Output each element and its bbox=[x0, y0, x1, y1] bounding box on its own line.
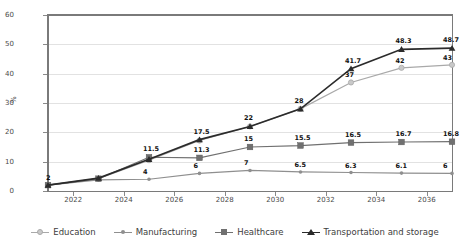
x-axis-tick-label: 2026 bbox=[154, 196, 194, 204]
x-axis-tick-mark bbox=[174, 192, 175, 196]
data-label: 6.3 bbox=[345, 163, 357, 170]
data-label: 15 bbox=[244, 136, 253, 143]
data-label: 6 bbox=[194, 163, 199, 170]
gridline bbox=[49, 162, 452, 163]
y-axis-tick-label: 40 bbox=[0, 74, 14, 81]
legend-item[interactable]: Manufacturing bbox=[114, 227, 198, 237]
data-label: 4 bbox=[143, 169, 148, 176]
data-label: 2 bbox=[46, 175, 51, 182]
data-label: 17.5 bbox=[194, 129, 210, 136]
data-label: 41.7 bbox=[345, 58, 361, 65]
legend-label: Education bbox=[53, 227, 95, 237]
gridline bbox=[49, 132, 452, 133]
legend-label: Transportation and storage bbox=[324, 227, 439, 237]
x-axis-tick-mark bbox=[124, 192, 125, 196]
x-axis-tick-label: 2024 bbox=[104, 196, 144, 204]
data-label: 6.1 bbox=[396, 163, 408, 170]
x-axis-tick-label: 2034 bbox=[356, 196, 396, 204]
data-label: 16.8 bbox=[443, 131, 459, 138]
legend-marker-icon bbox=[114, 227, 132, 237]
plot-area bbox=[47, 14, 453, 192]
x-axis-tick-mark bbox=[326, 192, 327, 196]
data-label: 16.7 bbox=[396, 131, 412, 138]
data-label: 11.5 bbox=[143, 146, 159, 153]
y-axis-tick-mark bbox=[43, 74, 47, 75]
y-axis-tick-label: 50 bbox=[0, 44, 14, 51]
y-axis-tick-mark bbox=[43, 44, 47, 45]
legend-item[interactable]: Healthcare bbox=[215, 227, 283, 237]
x-axis-tick-label: 2030 bbox=[255, 196, 295, 204]
y-axis-tick-label: 20 bbox=[0, 132, 14, 139]
data-label: 11.3 bbox=[194, 147, 210, 154]
data-label: 7 bbox=[244, 160, 249, 167]
data-label: 28 bbox=[295, 98, 304, 105]
y-axis-tick-label: 10 bbox=[0, 162, 14, 169]
data-label: 6 bbox=[443, 163, 448, 170]
gridline bbox=[49, 74, 452, 75]
gridline bbox=[49, 103, 452, 104]
x-axis-tick-label: 2028 bbox=[205, 196, 245, 204]
data-label: 22 bbox=[244, 115, 253, 122]
chart-legend: EducationManufacturingHealthcareTranspor… bbox=[0, 221, 470, 243]
data-label: 37 bbox=[345, 72, 354, 79]
x-axis-tick-mark bbox=[275, 192, 276, 196]
y-axis-tick-mark bbox=[43, 132, 47, 133]
data-label: 43 bbox=[443, 55, 452, 62]
data-label: 15.5 bbox=[295, 135, 311, 142]
x-axis-tick-label: 2036 bbox=[407, 196, 447, 204]
data-label: 42 bbox=[396, 58, 405, 65]
line-chart: 0102030405060 % 202220242026202820302032… bbox=[0, 0, 470, 247]
legend-label: Healthcare bbox=[237, 227, 283, 237]
y-axis-tick-mark bbox=[43, 191, 47, 192]
y-axis-tick-mark bbox=[43, 162, 47, 163]
data-label: 16.5 bbox=[345, 132, 361, 139]
legend-marker-icon bbox=[31, 227, 49, 237]
x-axis-tick-label: 2022 bbox=[53, 196, 93, 204]
x-axis-tick-label: 2032 bbox=[306, 196, 346, 204]
data-label: 48.7 bbox=[443, 37, 459, 44]
y-axis-tick-mark bbox=[43, 103, 47, 104]
x-axis-tick-mark bbox=[376, 192, 377, 196]
y-axis-tick-label: 30 bbox=[0, 103, 14, 110]
y-axis-title: % bbox=[10, 96, 18, 103]
x-axis-tick-mark bbox=[73, 192, 74, 196]
legend-marker-icon bbox=[215, 227, 233, 237]
x-axis-tick-mark bbox=[427, 192, 428, 196]
gridline bbox=[49, 44, 452, 45]
legend-marker-icon bbox=[302, 227, 320, 237]
y-axis-tick-mark bbox=[43, 15, 47, 16]
legend-item[interactable]: Transportation and storage bbox=[302, 227, 439, 237]
legend-label: Manufacturing bbox=[136, 227, 198, 237]
legend-item[interactable]: Education bbox=[31, 227, 95, 237]
data-label: 6.5 bbox=[295, 162, 307, 169]
data-label: 48.3 bbox=[396, 38, 412, 45]
x-axis-tick-mark bbox=[225, 192, 226, 196]
y-axis-tick-label: 0 bbox=[0, 191, 14, 198]
y-axis-tick-label: 60 bbox=[0, 15, 14, 22]
